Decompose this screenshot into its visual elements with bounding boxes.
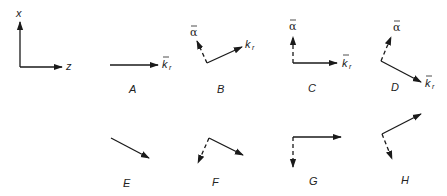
coordinate-axes: x z: [15, 7, 72, 72]
svg-text:r: r: [349, 63, 352, 70]
alpha-label: α: [190, 26, 198, 39]
k-vector-arrow: [381, 61, 421, 82]
panel-a: k r A: [110, 57, 172, 95]
k-vector-arrow: [207, 47, 242, 63]
panel-label: F: [212, 176, 220, 188]
k-vector-arrow: [382, 114, 421, 134]
svg-text:k: k: [342, 57, 348, 69]
svg-text:α: α: [289, 20, 297, 33]
k-vector-label: k r: [425, 76, 435, 90]
k-vector-arrow: [111, 138, 149, 158]
panel-label: H: [401, 174, 409, 186]
alpha-label: α: [289, 20, 297, 33]
svg-text:k: k: [162, 58, 168, 70]
alpha-label: α: [393, 21, 401, 34]
svg-text:r: r: [432, 83, 435, 90]
alpha-vector-arrow: [198, 138, 209, 163]
x-axis-label: x: [15, 7, 22, 19]
panel-h: H: [382, 114, 421, 186]
k-vector-label: k r: [162, 57, 172, 71]
panel-label: C: [308, 82, 316, 94]
k-vector-arrow: [209, 138, 243, 155]
k-vector-label: k r: [342, 55, 352, 70]
panel-g: G: [293, 137, 341, 187]
polarization-diagram: x z k r A α k r B α: [0, 0, 447, 196]
panel-e: E: [111, 138, 149, 189]
svg-text:α: α: [190, 26, 198, 39]
panel-label: A: [128, 83, 136, 95]
panel-label: B: [217, 83, 224, 95]
panel-label: G: [309, 175, 318, 187]
panel-label: E: [123, 177, 131, 189]
svg-text:k: k: [245, 38, 251, 50]
svg-text:r: r: [252, 44, 255, 51]
alpha-vector-arrow: [381, 37, 391, 61]
panel-label: D: [391, 81, 399, 93]
alpha-vector-arrow: [382, 134, 392, 159]
panel-b: α k r B: [190, 26, 255, 95]
panel-d: α k r D: [381, 21, 435, 93]
alpha-vector-arrow: [197, 41, 207, 63]
svg-text:k: k: [425, 77, 431, 89]
panel-f: F: [198, 138, 243, 188]
svg-text:r: r: [169, 64, 172, 71]
k-vector-label: k r: [245, 38, 255, 51]
z-axis-label: z: [65, 60, 72, 72]
panel-c: α k r C: [289, 20, 352, 94]
svg-text:α: α: [393, 21, 401, 34]
